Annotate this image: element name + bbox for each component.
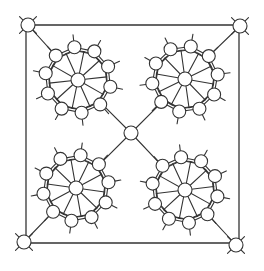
cluster-stub [192, 34, 193, 40]
cluster-stub [224, 198, 230, 199]
cluster-stub [213, 47, 217, 51]
cluster-outer-atom [75, 106, 88, 119]
corner-stub [241, 237, 245, 241]
cluster-stub [114, 61, 119, 63]
corner-stub [20, 17, 24, 21]
corner-stub [20, 30, 24, 34]
cluster-stub [112, 205, 117, 208]
cluster-outer-atom [40, 167, 53, 180]
cluster-stub [202, 115, 205, 120]
cluster-outer-atom [92, 158, 105, 171]
cluster-center-atom [178, 72, 192, 86]
cluster-stub [44, 216, 48, 220]
cluster-outer-atom [208, 88, 221, 101]
cluster-outer-atom [182, 216, 195, 229]
cluster-stub [95, 223, 98, 228]
cluster-stub [81, 143, 82, 149]
cluster-outer-atom [85, 211, 98, 224]
corner-stub [29, 247, 33, 251]
cluster-stub [220, 98, 225, 101]
cluster-outer-atom [146, 177, 159, 190]
cluster-stub [115, 180, 121, 181]
cluster-outer-atom [149, 197, 162, 210]
cluster-outer-atom [211, 190, 224, 203]
corner-stub [16, 247, 20, 251]
corner-stub [228, 250, 232, 254]
corner-stub [33, 17, 37, 21]
cluster-stub [33, 71, 39, 72]
cluster-outer-atom [195, 155, 208, 168]
cluster-stub [73, 35, 74, 41]
corner-stub [16, 234, 20, 238]
cluster-outer-atom [202, 50, 215, 63]
cluster-outer-atom [102, 176, 115, 189]
cluster-outer-atom [39, 67, 52, 80]
cluster-stub [144, 207, 149, 210]
diagram-canvas [0, 0, 264, 271]
cluster-stub [140, 84, 146, 85]
corner-top-left-atom [21, 18, 35, 32]
cluster-stub [190, 229, 191, 235]
cluster-outer-atom [94, 98, 107, 111]
center-atom [124, 126, 138, 140]
cluster-stub [180, 145, 181, 151]
cluster-outer-atom [162, 212, 175, 225]
corner-stub [241, 250, 245, 254]
cluster-stub [37, 96, 42, 98]
cluster-outer-atom [88, 45, 101, 58]
corner-stub [29, 234, 33, 238]
cluster-outer-atom [68, 41, 81, 54]
cluster-outer-atom [155, 95, 168, 108]
cluster-stub [221, 171, 226, 174]
cluster-outer-atom [55, 102, 68, 115]
cluster-stub [165, 38, 168, 43]
cluster-stub [204, 150, 207, 155]
corner-top-right-atom [233, 19, 247, 33]
cluster-stub [82, 119, 83, 125]
molecular-diagram [0, 0, 264, 271]
cluster-stub [98, 40, 101, 45]
cluster-stub [154, 157, 158, 161]
cluster-outer-atom [99, 196, 112, 209]
cluster-outer-atom [156, 159, 169, 172]
cluster-outer-atom [184, 40, 197, 53]
cluster-stub [140, 181, 146, 182]
cluster-outer-atom [49, 49, 62, 62]
cluster-stub [117, 88, 123, 89]
corner-stub [245, 31, 249, 35]
cluster-outer-atom [208, 170, 221, 183]
cluster-outer-atom [193, 102, 206, 115]
cluster-stub [47, 46, 51, 50]
cluster-center-atom [69, 181, 83, 195]
corner-bottom-right-atom [229, 238, 243, 252]
cluster-outer-atom [201, 208, 214, 221]
corner-stub [245, 18, 249, 22]
cluster-stub [145, 58, 150, 61]
cluster-stub [55, 148, 58, 153]
cluster-outer-atom [65, 214, 78, 227]
cluster-outer-atom [47, 205, 60, 218]
cluster-outer-atom [211, 68, 224, 81]
cluster-outer-atom [146, 77, 159, 90]
cluster-stub [31, 195, 37, 196]
cluster-outer-atom [54, 152, 67, 165]
cluster-stub [35, 168, 40, 171]
cluster-stub [55, 114, 58, 119]
cluster-outer-atom [104, 80, 117, 93]
cluster-outer-atom [149, 57, 162, 70]
cluster-stub [212, 219, 216, 223]
cluster-stub [224, 73, 230, 74]
cluster-outer-atom [41, 87, 54, 100]
cluster-outer-atom [164, 43, 177, 56]
cluster-outer-atom [37, 187, 50, 200]
cluster-outer-atom [74, 149, 87, 162]
cluster-stub [177, 118, 178, 124]
cluster-stub [163, 224, 166, 229]
cluster-stub [70, 227, 71, 233]
corner-stub [232, 31, 236, 35]
cluster-outer-atom [173, 105, 186, 118]
cluster-outer-atom [102, 60, 115, 73]
cluster-center-atom [71, 73, 85, 87]
cluster-outer-atom [175, 151, 188, 164]
cluster-center-atom [178, 183, 192, 197]
